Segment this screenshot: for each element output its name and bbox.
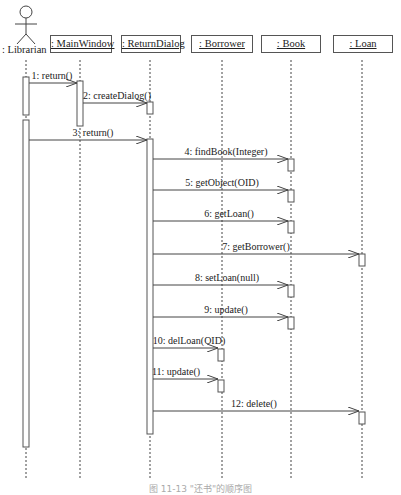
message-label: 10: delLoan(OID) <box>153 335 225 346</box>
stick-figure-icon <box>15 6 37 44</box>
message-label: 11: update() <box>152 366 200 377</box>
message-label: 4: findBook(Integer) <box>184 146 267 157</box>
message-label: 8: setLoan(null) <box>195 272 259 283</box>
message-label: 6: getLoan() <box>204 208 254 219</box>
figure-caption: 图 11-13 "还书"的顺序图 <box>0 482 401 495</box>
object-mainwindow: : MainWindow <box>50 35 112 53</box>
message-label: 5: getObject(OID) <box>185 177 259 188</box>
message-label: 12: delete() <box>231 398 277 409</box>
message-label: 9: update() <box>204 304 248 315</box>
actor-librarian-label: : Librarian <box>2 44 47 55</box>
message-label: 1: return() <box>32 70 73 81</box>
object-borrower: : Borrower <box>191 35 253 53</box>
message-label: 7: getBorrower() <box>222 241 289 252</box>
object-loan: : Loan <box>333 35 393 53</box>
message-label: 3: return() <box>73 127 114 138</box>
object-returndialog: : ReturnDialog <box>121 35 181 53</box>
lifelines <box>26 60 362 480</box>
message-label: 2: createDialog() <box>83 90 151 101</box>
object-book: : Book <box>261 35 321 53</box>
